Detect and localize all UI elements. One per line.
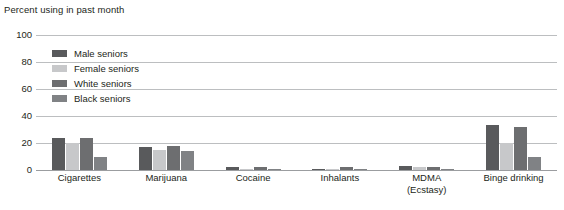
bar bbox=[486, 125, 499, 170]
bar bbox=[52, 138, 65, 170]
bar bbox=[80, 138, 93, 170]
bar bbox=[153, 150, 166, 170]
gridline-0 bbox=[36, 170, 557, 171]
bar bbox=[254, 167, 267, 170]
y-axis-tick-label: 100 bbox=[2, 30, 32, 40]
bar-group bbox=[470, 35, 557, 170]
x-axis-label-line: Cocaine bbox=[236, 172, 271, 183]
x-axis-label-line: Inhalants bbox=[321, 172, 360, 183]
y-axis-tick-label: 20 bbox=[2, 138, 32, 148]
y-axis-tick-label: 80 bbox=[2, 57, 32, 67]
bar-group bbox=[383, 35, 470, 170]
x-axis-label: Marijuana bbox=[123, 172, 210, 196]
x-axis-label-line: Cigarettes bbox=[58, 172, 101, 183]
legend-swatch-icon bbox=[52, 65, 67, 72]
bar bbox=[181, 151, 194, 170]
x-axis-label: Inhalants bbox=[296, 172, 383, 196]
bar bbox=[226, 167, 239, 170]
bar bbox=[268, 169, 281, 170]
bar bbox=[326, 169, 339, 170]
x-axis-label: Binge drinking bbox=[470, 172, 557, 196]
bar bbox=[66, 143, 79, 170]
legend-item[interactable]: White seniors bbox=[52, 76, 202, 91]
bar bbox=[514, 127, 527, 170]
x-axis-label-line: Binge drinking bbox=[483, 172, 543, 183]
bar bbox=[500, 143, 513, 170]
bar bbox=[312, 169, 325, 170]
x-axis-label: Cigarettes bbox=[36, 172, 123, 196]
legend-item[interactable]: Female seniors bbox=[52, 61, 202, 76]
bar-group bbox=[296, 35, 383, 170]
x-axis-labels: CigarettesMarijuanaCocaineInhalantsMDMA(… bbox=[36, 172, 557, 196]
bar-chart-figure: Percent using in past month 100806040200… bbox=[0, 0, 564, 210]
x-axis-label-line: MDMA bbox=[412, 172, 441, 183]
bar bbox=[340, 167, 353, 170]
chart-legend: Male seniorsFemale seniorsWhite seniorsB… bbox=[52, 46, 202, 106]
legend-swatch-icon bbox=[52, 95, 67, 102]
y-axis-tick-label: 0 bbox=[2, 165, 32, 175]
x-axis-label: MDMA(Ecstasy) bbox=[383, 172, 470, 196]
y-axis: 100806040200 bbox=[0, 35, 32, 170]
chart-axis-title: Percent using in past month bbox=[4, 4, 124, 16]
bar bbox=[167, 146, 180, 170]
bar bbox=[427, 167, 440, 170]
x-axis-label-line: Marijuana bbox=[145, 172, 187, 183]
legend-item-label: Female seniors bbox=[74, 63, 139, 74]
legend-item-label: White seniors bbox=[74, 78, 132, 89]
y-axis-tick-label: 60 bbox=[2, 84, 32, 94]
bar bbox=[413, 167, 426, 170]
x-axis-label-line: (Ecstasy) bbox=[383, 184, 470, 196]
bar bbox=[399, 166, 412, 170]
y-axis-tick-label: 40 bbox=[2, 111, 32, 121]
x-axis-label: Cocaine bbox=[210, 172, 297, 196]
bar bbox=[528, 157, 541, 171]
legend-item[interactable]: Male seniors bbox=[52, 46, 202, 61]
legend-item-label: Male seniors bbox=[74, 48, 128, 59]
bar-group bbox=[210, 35, 297, 170]
legend-swatch-icon bbox=[52, 50, 67, 57]
bar bbox=[354, 169, 367, 170]
legend-item-label: Black seniors bbox=[74, 93, 131, 104]
bar bbox=[139, 147, 152, 170]
legend-swatch-icon bbox=[52, 80, 67, 87]
bar bbox=[240, 169, 253, 170]
bar bbox=[441, 169, 454, 170]
legend-item[interactable]: Black seniors bbox=[52, 91, 202, 106]
bar bbox=[94, 157, 107, 171]
